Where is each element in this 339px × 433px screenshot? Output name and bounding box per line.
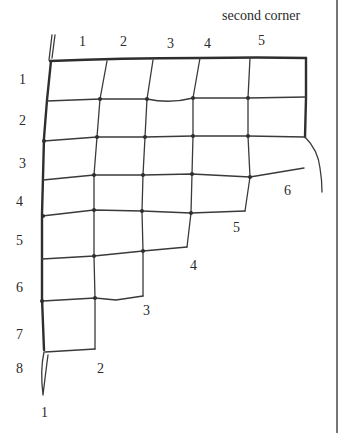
bar-7 (43, 296, 143, 301)
diagonal-label-2: 2 (97, 361, 104, 376)
bar-6 (42, 247, 187, 259)
bar-4 (43, 168, 304, 180)
column-line-1 (94, 61, 107, 349)
bottom-loop (42, 352, 48, 395)
knot (248, 175, 252, 179)
diagonal-label-3: 3 (143, 303, 150, 318)
side-label-7: 7 (16, 327, 23, 342)
knot (92, 254, 96, 258)
knot (98, 97, 102, 101)
bar-8 (45, 349, 95, 352)
diagonal-label-6: 6 (284, 183, 291, 198)
top-label-3: 3 (167, 36, 174, 51)
head-rope (50, 58, 306, 62)
bar-3 (44, 136, 305, 141)
left-selvedge (42, 61, 51, 350)
knot (246, 96, 250, 100)
knot (40, 299, 44, 303)
column-line-3 (187, 58, 200, 247)
knot (95, 135, 99, 139)
side-label-3: 3 (19, 156, 26, 171)
side-label-5: 5 (16, 233, 23, 248)
diagonal-label-5: 5 (233, 220, 240, 235)
knot (189, 211, 193, 215)
top-label-2: 2 (120, 34, 127, 49)
diagonal-labels: 6 5 4 3 2 (97, 183, 291, 376)
knot (140, 209, 144, 213)
diagonal-label-4: 4 (190, 258, 197, 273)
column-line-2 (142, 60, 153, 296)
knot (141, 249, 145, 253)
side-labels: 1 2 3 4 5 6 7 8 (16, 72, 26, 376)
second-corner-label: second corner (222, 8, 300, 23)
knot (191, 134, 195, 138)
top-label-1: 1 (79, 34, 86, 49)
side-label-2: 2 (19, 113, 26, 128)
knot (92, 173, 96, 177)
top-label-5: 5 (258, 33, 265, 48)
knot (41, 214, 45, 218)
side-label-6: 6 (16, 280, 23, 295)
knot (191, 96, 195, 100)
knot (190, 172, 194, 176)
loose-end (305, 137, 322, 192)
side-label-8: 8 (16, 361, 23, 376)
top-labels: 1 2 3 4 5 (79, 33, 265, 51)
knot (93, 296, 97, 300)
net-diagram: second corner 1 2 3 4 5 1 2 3 4 5 6 7 8 … (0, 0, 339, 433)
knot (246, 134, 250, 138)
knot (145, 97, 149, 101)
side-label-1: 1 (19, 72, 26, 87)
top-label-4: 4 (204, 36, 211, 51)
bar-2 (47, 97, 306, 101)
knot (42, 139, 46, 143)
knot (141, 173, 145, 177)
start-loop (49, 35, 55, 60)
net-mesh (42, 35, 322, 395)
bottom-label: 1 (41, 405, 48, 420)
knot (143, 135, 147, 139)
side-label-4: 4 (16, 194, 23, 209)
knot (92, 208, 96, 212)
